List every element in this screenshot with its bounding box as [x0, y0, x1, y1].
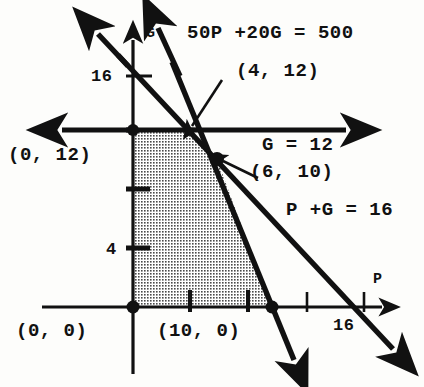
equation-label-cost: 50P +20G = 500: [187, 24, 354, 43]
linear-programming-figure: G 50P +20G = 500 (4, 12) 16 (0, 12) G = …: [0, 0, 424, 387]
feasible-region: [134, 131, 271, 306]
equation-label-p-plus-g: P +G = 16: [286, 201, 393, 220]
dot-0-0: [127, 301, 140, 314]
point-label-0-12: (0, 12): [8, 146, 91, 165]
p-axis-label: P: [373, 272, 383, 287]
dot-0-12: [127, 124, 139, 136]
equation-label-g-12: G = 12: [262, 136, 333, 155]
y-tick-label-16: 16: [91, 68, 112, 85]
point-label-4-12: (4, 12): [236, 62, 319, 81]
y-tick-label-4: 4: [106, 241, 117, 258]
x-tick-label-16: 16: [333, 317, 354, 334]
point-label-6-10: (6, 10): [250, 163, 333, 182]
point-label-0-0: (0, 0): [16, 322, 87, 341]
dot-10-0: [266, 301, 279, 314]
g-axis-label: G: [146, 26, 156, 41]
point-label-10-0: (10, 0): [157, 322, 240, 341]
dot-6-10: [210, 152, 224, 166]
leader-4-12: [192, 80, 222, 126]
